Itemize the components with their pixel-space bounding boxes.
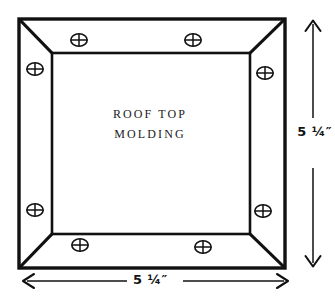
- screw-cross-icon-top-right: [185, 34, 201, 46]
- screw-cross-icon-left-lower: [27, 204, 43, 216]
- screw-cross-icon-right-lower: [255, 205, 271, 217]
- screw-cross-icon-bottom-right: [195, 241, 211, 253]
- dimension-label-height: 5 ¼″: [297, 124, 332, 139]
- molding-center-label: ROOF TOP MOLDING: [0, 104, 300, 144]
- screw-cross-icon-left-upper: [27, 63, 43, 75]
- molding-label-line-1: ROOF TOP: [113, 107, 187, 121]
- screw-cross-icon-bottom-left: [72, 239, 88, 251]
- molding-drawing: [0, 0, 335, 307]
- screw-cross-icon-top-left: [71, 34, 87, 46]
- molding-label-line-2: MOLDING: [0, 124, 300, 144]
- screw-cross-icon-right-upper: [257, 67, 273, 79]
- dimension-line-vertical: [306, 21, 321, 267]
- dimension-label-width: 5 ¼″: [133, 272, 168, 287]
- roof-top-molding-diagram: ROOF TOP MOLDING 5 ¼″ 5 ¼″: [0, 0, 335, 307]
